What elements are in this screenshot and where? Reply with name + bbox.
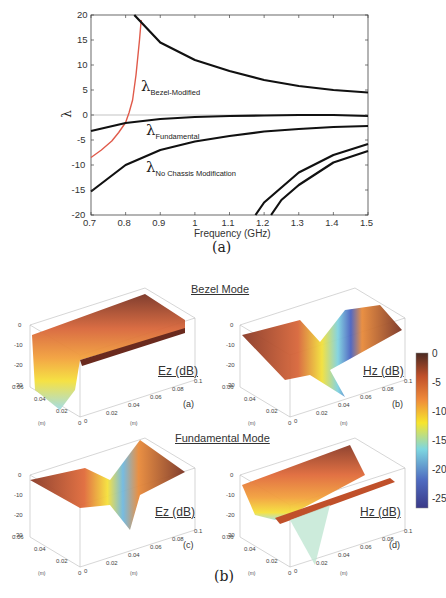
- z-tick: 0: [18, 472, 21, 478]
- panel-d-label: Hz (dB): [360, 505, 401, 519]
- caption-a: (a): [212, 239, 231, 255]
- colorbar-tick: -15: [432, 435, 446, 446]
- lambda-vs-frequency-plot: [0, 0, 446, 240]
- z-tick: -10: [226, 492, 235, 498]
- y-tick-3d: 0.06: [222, 534, 234, 540]
- y-tick-3d: 0.04: [244, 546, 256, 552]
- y-tick: -5: [77, 134, 85, 145]
- y-tick-3d: 0.06: [222, 384, 234, 390]
- axis-unit: (m): [38, 420, 46, 426]
- y-axis-label: λ: [60, 110, 74, 118]
- series-line: [256, 144, 369, 215]
- x-tick-3d: 0.08: [172, 386, 184, 392]
- panel-b-label: Hz (dB): [363, 364, 404, 378]
- axis-unit: (m): [130, 420, 138, 426]
- axis-unit: (m): [130, 570, 138, 576]
- x-tick-3d: 0: [294, 418, 297, 424]
- x-tick-3d: 0: [294, 568, 297, 574]
- y-tick-3d: 0: [78, 420, 81, 426]
- caption-b: (b): [214, 568, 234, 584]
- y-tick-3d: 0.02: [266, 408, 278, 414]
- x-tick-3d: 0.1: [404, 528, 412, 534]
- x-tick-3d: 0.06: [150, 544, 162, 550]
- x-tick-3d: 0: [84, 418, 87, 424]
- axis-unit: (m): [248, 420, 256, 426]
- annotation-no-chassis: λNo Chassis Modification: [146, 158, 236, 178]
- x-tick: 0.9: [152, 217, 165, 228]
- z-tick: -20: [226, 362, 235, 368]
- annotation-fundamental: λFundamental: [146, 121, 199, 141]
- panel-b-sub: (b): [392, 399, 403, 409]
- axis-unit: (m): [248, 570, 256, 576]
- z-tick: -20: [226, 512, 235, 518]
- x-tick-3d: 0.06: [150, 394, 162, 400]
- colorbar-tick: -25: [432, 493, 446, 504]
- y-tick: 0: [83, 109, 88, 120]
- y-tick-3d: 0.04: [244, 396, 256, 402]
- y-tick-3d: 0.06: [12, 534, 24, 540]
- x-tick-3d: 0.04: [338, 402, 350, 408]
- colorbar-tick: -10: [432, 406, 446, 417]
- y-tick-3d: 0.02: [266, 558, 278, 564]
- y-tick-3d: 0: [78, 570, 81, 576]
- axis-unit: (m): [340, 420, 348, 426]
- colorbar-tick: -20: [432, 464, 446, 475]
- y-tick-3d: 0: [288, 570, 291, 576]
- z-tick: -10: [226, 342, 235, 348]
- x-tick-3d: 0.04: [338, 552, 350, 558]
- colorbar-tick: 0: [432, 348, 438, 359]
- y-tick-3d: 0.04: [34, 546, 46, 552]
- x-tick: 1: [192, 217, 197, 228]
- y-tick-3d: 0: [288, 420, 291, 426]
- y-tick: 10: [77, 59, 88, 70]
- y-tick-3d: 0.04: [34, 396, 46, 402]
- x-tick: 0.8: [118, 217, 131, 228]
- y-tick: 15: [77, 34, 88, 45]
- colorbar-tick: -5: [432, 377, 441, 388]
- z-tick: -20: [14, 362, 23, 368]
- z-tick: -10: [14, 492, 23, 498]
- x-tick-3d: 0.06: [360, 544, 372, 550]
- y-tick: -10: [72, 159, 86, 170]
- x-tick-3d: 0.08: [382, 536, 394, 542]
- axis-unit: (m): [38, 570, 46, 576]
- panel-a-sub: (a): [183, 399, 194, 409]
- x-tick: 1.4: [325, 217, 338, 228]
- y-tick: 20: [77, 9, 88, 20]
- x-tick-3d: 0.02: [106, 560, 118, 566]
- panel-a-label: Ez (dB): [158, 364, 198, 378]
- z-tick: 0: [230, 322, 233, 328]
- series-line: [91, 115, 368, 131]
- x-tick-3d: 0.1: [194, 528, 202, 534]
- x-tick-3d: 0.1: [404, 378, 412, 384]
- colorbar: [416, 353, 428, 508]
- y-tick-3d: 0.02: [56, 558, 68, 564]
- x-tick-3d: 0.02: [316, 410, 328, 416]
- z-tick: 0: [230, 472, 233, 478]
- z-tick: 0: [18, 322, 21, 328]
- x-tick: 1.2: [256, 217, 269, 228]
- x-tick: 0.7: [83, 217, 96, 228]
- x-axis-label: Frequency (GHz): [194, 228, 271, 239]
- y-tick: 5: [83, 84, 88, 95]
- annotation-bezel-modified: λBezel-Modified: [141, 77, 200, 97]
- x-tick-3d: 0.08: [172, 536, 184, 542]
- axis-unit: (m): [340, 570, 348, 576]
- x-tick-3d: 0.08: [382, 386, 394, 392]
- x-tick: 1.1: [221, 217, 234, 228]
- x-tick-3d: 0.04: [128, 402, 140, 408]
- y-tick-3d: 0.02: [56, 408, 68, 414]
- series-line: [91, 20, 141, 158]
- panel-c-sub: (c): [183, 540, 194, 550]
- x-tick-3d: 0.1: [194, 378, 202, 384]
- x-tick-3d: 0: [84, 568, 87, 574]
- z-tick: -20: [14, 512, 23, 518]
- panel-c-label: Ez (dB): [155, 505, 195, 519]
- x-tick-3d: 0.02: [316, 560, 328, 566]
- x-tick-3d: 0.06: [360, 394, 372, 400]
- y-tick: -15: [72, 184, 86, 195]
- x-tick: 1.5: [360, 217, 373, 228]
- x-tick: 1.3: [291, 217, 304, 228]
- x-tick-3d: 0.04: [128, 552, 140, 558]
- z-tick: -10: [14, 342, 23, 348]
